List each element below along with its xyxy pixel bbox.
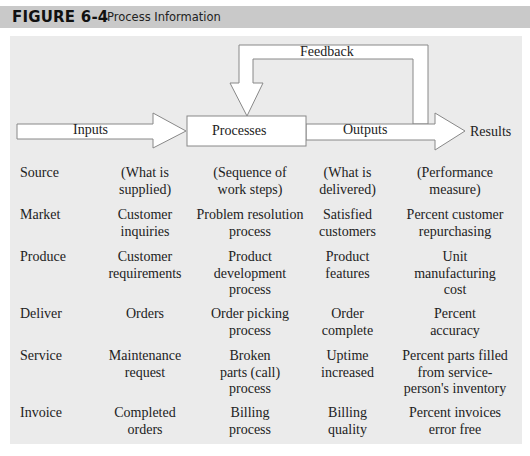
inputs-label: Inputs xyxy=(73,122,108,138)
table-cell-processes: Brokenparts (call)process xyxy=(185,348,315,398)
table-cell-results: Unitmanufacturingcost xyxy=(390,249,520,299)
table-cell-results: Percentaccuracy xyxy=(390,306,520,339)
table-cell-processes: (Sequence ofwork steps) xyxy=(185,165,315,198)
table-cell-outputs: (What isdelivered) xyxy=(300,165,395,198)
table-cell-results: Percent invoiceserror free xyxy=(390,405,520,438)
outputs-label: Outputs xyxy=(343,122,387,138)
table-cell-results: Percent customerrepurchasing xyxy=(390,207,520,240)
table-cell-source: Service xyxy=(20,348,90,365)
table-cell-source: Market xyxy=(20,207,90,224)
table-cell-source: Deliver xyxy=(20,306,90,323)
table-cell-outputs: Satisfiedcustomers xyxy=(300,207,395,240)
table-cell-processes: Billingprocess xyxy=(185,405,315,438)
table-cell-source: Invoice xyxy=(20,405,90,422)
table-cell-source: Source xyxy=(20,165,90,182)
table-cell-results: Percent parts filledfrom service-person'… xyxy=(390,348,520,398)
table-cell-outputs: Billingquality xyxy=(300,405,395,438)
table-cell-processes: Order pickingprocess xyxy=(185,306,315,339)
table-cell-outputs: Uptimeincreased xyxy=(300,348,395,381)
results-label: Results xyxy=(470,124,511,140)
feedback-label: Feedback xyxy=(300,44,354,60)
table-cell-outputs: Productfeatures xyxy=(300,249,395,282)
processes-label: Processes xyxy=(212,123,266,139)
table-cell-outputs: Ordercomplete xyxy=(300,306,395,339)
table-cell-results: (Performancemeasure) xyxy=(390,165,520,198)
table-cell-processes: Problem resolutionprocess xyxy=(185,207,315,240)
table-cell-source: Produce xyxy=(20,249,90,266)
table-cell-processes: Productdevelopmentprocess xyxy=(185,249,315,299)
